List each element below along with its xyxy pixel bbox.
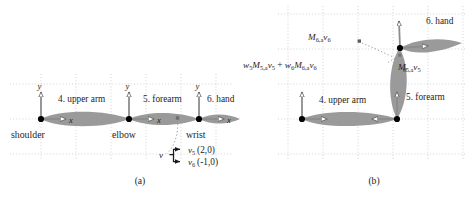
arm-skinning-figure: y x y x y x 4. upper arm 5. forearm 6. h… bbox=[0, 0, 473, 198]
figure-root: y x y x y x 4. upper arm 5. forearm 6. h… bbox=[0, 0, 473, 198]
joint-wrist-a bbox=[196, 116, 202, 122]
bone-label-hand-a: 6. hand bbox=[207, 94, 235, 104]
joint-elbow-a bbox=[126, 116, 132, 122]
y-axis-label-wrist-a: y bbox=[195, 81, 200, 91]
binding-v6-coords-a: (-1,0) bbox=[197, 157, 218, 168]
binding-v5-sub-a: 5 bbox=[192, 149, 195, 156]
joint-elbow-b bbox=[394, 116, 400, 122]
x-axis-label-shoulder-a: x bbox=[68, 115, 73, 125]
bone-label-upper-arm-b: 4. upper arm bbox=[319, 95, 367, 105]
y-axis-wrist-b bbox=[399, 21, 400, 48]
joint-shoulder-a bbox=[38, 116, 44, 122]
binding-v5-coords-a: (2,0) bbox=[197, 145, 215, 156]
joint-shoulder-b bbox=[299, 116, 305, 122]
joint-label-wrist-a: wrist bbox=[186, 129, 206, 140]
bone-label-hand-b: 6. hand bbox=[426, 16, 454, 26]
vertex-marker-a bbox=[176, 116, 179, 119]
bone-label-upper-arm-a: 4. upper arm bbox=[58, 94, 106, 104]
vertex-marker-blend-b bbox=[398, 54, 401, 57]
x-axis-label-elbow-a: x bbox=[156, 115, 161, 125]
caption-panel-b: (b) bbox=[368, 175, 379, 187]
caption-panel-a: (a) bbox=[135, 175, 146, 187]
joint-label-elbow-a: elbow bbox=[112, 129, 137, 140]
bone-label-forearm-b: 5. forearm bbox=[406, 92, 445, 102]
vertex-marker-m6v6-b bbox=[358, 39, 361, 42]
x-axis-label-wrist-a: x bbox=[226, 115, 231, 125]
joint-wrist-b bbox=[397, 45, 403, 51]
y-axis-label-shoulder-a: y bbox=[37, 81, 42, 91]
binding-v5-a: v5(2,0) bbox=[188, 145, 215, 156]
joint-label-shoulder-a: shoulder bbox=[11, 129, 45, 140]
binding-v6-sub-a: 6 bbox=[192, 161, 195, 168]
y-axis-label-elbow-a: y bbox=[125, 81, 130, 91]
bone-label-forearm-a: 5. forearm bbox=[143, 94, 182, 104]
